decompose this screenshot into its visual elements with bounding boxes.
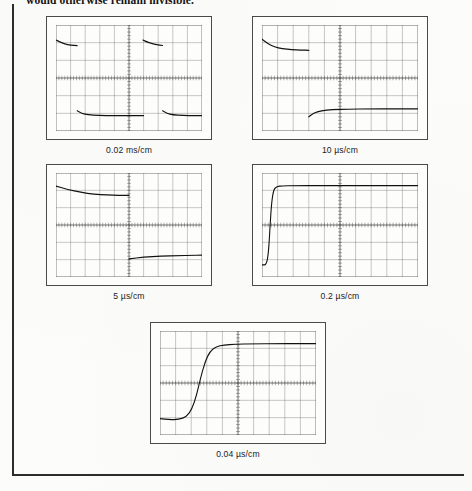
scope-cell-3: 0.2 µs/cm xyxy=(252,164,428,301)
scope-frame-0 xyxy=(46,16,212,140)
scope-caption-0: 0.02 ms/cm xyxy=(46,145,212,155)
scope-graticule-4 xyxy=(160,331,316,435)
scope-screen-3 xyxy=(262,173,418,277)
scope-frame-4 xyxy=(150,322,326,444)
scope-graticule-1 xyxy=(262,25,418,131)
scope-graticule-0 xyxy=(56,25,202,131)
scope-caption-1: 10 µs/cm xyxy=(252,145,428,155)
scope-caption-3: 0.2 µs/cm xyxy=(252,291,428,301)
scope-graticule-2 xyxy=(56,173,202,277)
scope-cell-1: 10 µs/cm xyxy=(252,16,428,155)
scope-screen-4 xyxy=(160,331,316,435)
scope-cell-0: 0.02 ms/cm xyxy=(46,16,212,155)
scope-screen-0 xyxy=(56,25,202,131)
scope-cell-4: 0.04 µs/cm xyxy=(150,322,326,459)
scope-frame-2 xyxy=(46,164,212,286)
scope-cell-2: 5 µs/cm xyxy=(46,164,212,301)
scope-graticule-3 xyxy=(262,173,418,277)
scope-screen-2 xyxy=(56,173,202,277)
scope-caption-2: 5 µs/cm xyxy=(46,291,212,301)
oscilloscope-figure: 0.02 ms/cm 10 µs/cm 5 µs/cm 0.2 µs/cm xyxy=(0,0,472,491)
scope-screen-1 xyxy=(262,25,418,131)
scope-caption-4: 0.04 µs/cm xyxy=(150,449,326,459)
scope-frame-1 xyxy=(252,16,428,140)
scope-frame-3 xyxy=(252,164,428,286)
